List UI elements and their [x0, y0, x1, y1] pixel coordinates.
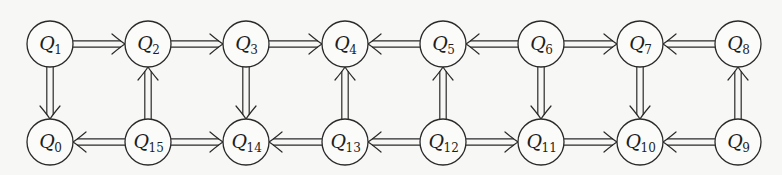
edge-q7-to-q10 [630, 67, 650, 119]
edge-q2-to-q3 [171, 34, 223, 54]
edge-q15-to-q14 [171, 132, 223, 152]
edge-q8-to-q7 [663, 34, 715, 54]
arrowhead-icon [505, 132, 518, 152]
edge-q6-to-q11 [531, 67, 551, 119]
arrowhead-icon [728, 67, 748, 80]
node-label: Q [334, 32, 350, 54]
node-label: Q [331, 130, 347, 152]
node-subscript: 14 [247, 141, 263, 155]
node-label: Q [429, 130, 445, 152]
node-label: Q [527, 130, 543, 152]
node-label: Q [530, 32, 546, 54]
edge-q9-to-q10 [663, 132, 715, 152]
state-graph: Q1Q2Q3Q4Q5Q6Q7Q8Q0Q15Q14Q13Q12Q11Q10Q9 [0, 0, 782, 175]
edge-q9-to-q8 [728, 67, 748, 119]
arrowhead-icon [630, 106, 650, 119]
arrowhead-icon [236, 106, 256, 119]
arrowhead-icon [368, 34, 381, 54]
node-q15: Q15 [125, 119, 171, 165]
node-q12: Q12 [420, 119, 466, 165]
node-q9: Q9 [715, 119, 761, 165]
node-label: Q [232, 130, 248, 152]
node-subscript: 11 [542, 141, 557, 155]
edge-q3-to-q4 [269, 34, 322, 54]
node-label: Q [626, 130, 642, 152]
node-q0: Q0 [27, 119, 73, 165]
node-q13: Q13 [322, 119, 368, 165]
nodes-layer: Q1Q2Q3Q4Q5Q6Q7Q8Q0Q15Q14Q13Q12Q11Q10Q9 [27, 21, 761, 165]
edge-q13-to-q4 [335, 67, 355, 119]
edge-q12-to-q11 [466, 132, 518, 152]
node-q11: Q11 [518, 119, 564, 165]
node-q1: Q1 [27, 21, 73, 67]
node-q6: Q6 [518, 21, 564, 67]
arrowhead-icon [40, 106, 60, 119]
arrowhead-icon [604, 34, 617, 54]
edge-q11-to-q10 [564, 132, 617, 152]
node-label: Q [134, 130, 150, 152]
arrowhead-icon [335, 67, 355, 80]
node-label: Q [727, 130, 743, 152]
node-label: Q [727, 32, 743, 54]
arrowhead-icon [663, 34, 676, 54]
edge-q13-to-q14 [269, 132, 322, 152]
edge-q6-to-q5 [466, 34, 518, 54]
edge-q1-to-q2 [73, 34, 125, 54]
node-subscript: 9 [742, 141, 750, 155]
edge-q6-to-q7 [564, 34, 617, 54]
edge-q3-to-q14 [236, 67, 256, 119]
arrowhead-icon [269, 132, 282, 152]
node-subscript: 12 [444, 141, 459, 155]
arrowhead-icon [210, 132, 223, 152]
node-q5: Q5 [420, 21, 466, 67]
arrowhead-icon [663, 132, 676, 152]
node-q2: Q2 [125, 21, 171, 67]
edge-q12-to-q5 [433, 67, 453, 119]
edge-q12-to-q13 [368, 132, 420, 152]
node-subscript: 7 [644, 43, 652, 57]
node-subscript: 15 [149, 141, 164, 155]
node-subscript: 10 [641, 141, 656, 155]
node-subscript: 6 [545, 43, 553, 57]
arrowhead-icon [368, 132, 381, 152]
edge-q15-to-q0 [73, 132, 125, 152]
node-subscript: 0 [54, 141, 62, 155]
node-subscript: 4 [349, 43, 357, 57]
node-label: Q [137, 32, 153, 54]
node-label: Q [39, 130, 55, 152]
edge-q15-to-q2 [138, 67, 158, 119]
arrowhead-icon [604, 132, 617, 152]
edge-q1-to-q0 [40, 67, 60, 119]
arrowhead-icon [138, 67, 158, 80]
node-subscript: 3 [250, 43, 258, 57]
arrowhead-icon [309, 34, 322, 54]
arrowhead-icon [466, 34, 479, 54]
arrowhead-icon [112, 34, 125, 54]
node-q7: Q7 [617, 21, 663, 67]
node-q10: Q10 [617, 119, 663, 165]
node-q8: Q8 [715, 21, 761, 67]
node-q14: Q14 [223, 119, 269, 165]
node-q3: Q3 [223, 21, 269, 67]
node-subscript: 1 [54, 43, 62, 57]
node-label: Q [235, 32, 251, 54]
node-subscript: 5 [447, 43, 455, 57]
node-subscript: 13 [346, 141, 361, 155]
node-label: Q [39, 32, 55, 54]
arrowhead-icon [433, 67, 453, 80]
arrowhead-icon [73, 132, 86, 152]
arrowhead-icon [210, 34, 223, 54]
arrowhead-icon [531, 106, 551, 119]
edge-q5-to-q4 [368, 34, 420, 54]
node-subscript: 2 [152, 43, 160, 57]
node-label: Q [432, 32, 448, 54]
node-label: Q [629, 32, 645, 54]
node-subscript: 8 [742, 43, 750, 57]
node-q4: Q4 [322, 21, 368, 67]
